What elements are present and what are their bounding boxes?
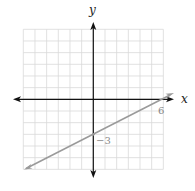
y-intercept-label: −3: [96, 135, 111, 146]
x-axis-label: x: [181, 92, 188, 106]
line-arrow-right-icon: [166, 93, 175, 98]
y-axis: [90, 22, 96, 178]
x-intercept-label: 6: [158, 105, 164, 116]
y-axis-label: y: [88, 3, 96, 17]
coordinate-plane: x y −3 6: [0, 0, 195, 191]
line-arrow-left-icon: [24, 164, 33, 170]
y-intercept-point: [92, 133, 95, 136]
